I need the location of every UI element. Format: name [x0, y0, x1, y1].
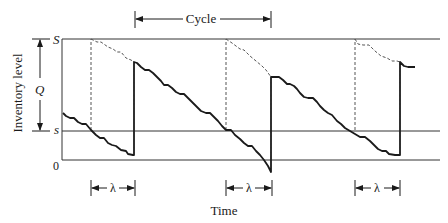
- cycle-bracket: Cycle: [135, 11, 271, 28]
- lead-time-label: λ: [374, 181, 380, 195]
- x-axis-label: Time: [211, 203, 238, 218]
- inventory-diagram: S s 0 Q Inventory level Cycle λ: [0, 0, 448, 223]
- zero-level-label: 0: [53, 159, 59, 173]
- order-quantity-dimension: Q: [32, 39, 50, 131]
- s-level-label: s: [54, 122, 59, 137]
- cycle-label: Cycle: [186, 11, 217, 26]
- lead-time-label: λ: [246, 181, 252, 195]
- dashed-order-paths: [91, 39, 400, 130]
- lead-time-bracket-3: λ: [355, 180, 400, 196]
- lead-time-bracket-1: λ: [91, 180, 135, 196]
- inventory-path: [63, 62, 415, 172]
- S-level-label: S: [53, 32, 60, 47]
- lead-time-bracket-2: λ: [226, 180, 272, 196]
- y-axis-label: Inventory level: [10, 53, 25, 132]
- lead-time-label: λ: [110, 181, 116, 195]
- order-quantity-label: Q: [35, 82, 45, 97]
